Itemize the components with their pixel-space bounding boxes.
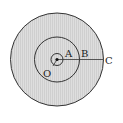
center-point: [55, 58, 58, 61]
label-o: O: [43, 68, 51, 79]
label-c: C: [105, 55, 113, 66]
label-b: B: [81, 48, 88, 59]
concentric-circles-diagram: O A B C: [0, 0, 123, 123]
label-a: A: [64, 48, 73, 59]
